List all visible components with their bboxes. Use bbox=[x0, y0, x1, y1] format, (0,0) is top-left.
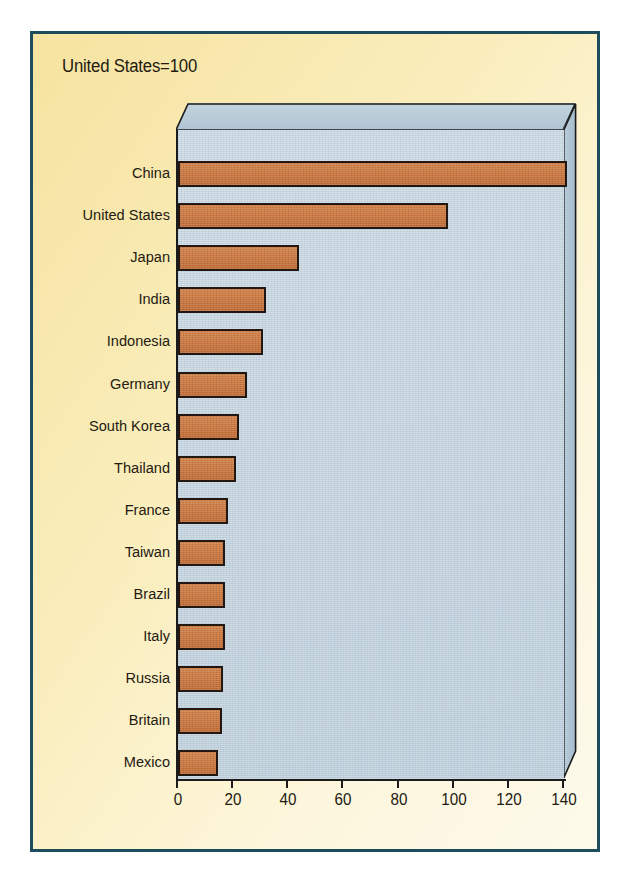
category-label-indonesia: Indonesia bbox=[0, 332, 170, 350]
category-label-italy: Italy bbox=[0, 627, 170, 645]
category-label-russia: Russia bbox=[0, 669, 170, 687]
figure-canvas: United States=100 ChinaUnited StatesJapa… bbox=[0, 0, 634, 893]
x-tick-60 bbox=[341, 779, 343, 788]
category-label-taiwan: Taiwan bbox=[0, 543, 170, 561]
category-label-brazil: Brazil bbox=[0, 585, 170, 603]
bar-italy bbox=[178, 624, 225, 650]
bar-south-korea bbox=[178, 414, 239, 440]
x-tick-40 bbox=[286, 779, 288, 788]
bar-japan bbox=[178, 245, 299, 271]
plot-front-wall bbox=[176, 130, 564, 779]
category-label-mexico: Mexico bbox=[0, 753, 170, 771]
x-tick-140 bbox=[562, 779, 564, 788]
bar-france bbox=[178, 498, 228, 524]
category-label-japan: Japan bbox=[0, 248, 170, 266]
bar-taiwan bbox=[178, 540, 225, 566]
plot-area-3d bbox=[176, 103, 576, 779]
bar-india bbox=[178, 287, 266, 313]
x-tick-label-20: 20 bbox=[212, 791, 254, 809]
category-label-thailand: Thailand bbox=[0, 459, 170, 477]
x-tick-80 bbox=[397, 779, 399, 788]
bar-brazil bbox=[178, 582, 225, 608]
bar-indonesia bbox=[178, 329, 263, 355]
bar-mexico bbox=[178, 750, 218, 776]
bar-germany bbox=[178, 372, 247, 398]
bar-united-states bbox=[178, 203, 448, 229]
category-label-france: France bbox=[0, 501, 170, 519]
x-axis: 020406080100120140 bbox=[176, 779, 578, 839]
category-label-china: China bbox=[0, 164, 170, 182]
category-label-united-states: United States bbox=[0, 206, 170, 224]
x-tick-label-100: 100 bbox=[433, 791, 475, 809]
chart-panel: United States=100 ChinaUnited StatesJapa… bbox=[30, 31, 600, 852]
bar-thailand bbox=[178, 456, 236, 482]
bar-russia bbox=[178, 666, 223, 692]
x-tick-0 bbox=[176, 779, 178, 788]
plot-top-face bbox=[176, 103, 576, 131]
x-tick-label-80: 80 bbox=[378, 791, 420, 809]
category-axis-labels: ChinaUnited StatesJapanIndiaIndonesiaGer… bbox=[0, 103, 170, 803]
x-tick-label-120: 120 bbox=[488, 791, 530, 809]
bar-china bbox=[178, 161, 567, 187]
category-label-germany: Germany bbox=[0, 375, 170, 393]
x-tick-label-60: 60 bbox=[323, 791, 365, 809]
x-tick-label-40: 40 bbox=[267, 791, 309, 809]
x-tick-label-140: 140 bbox=[543, 791, 585, 809]
x-tick-label-0: 0 bbox=[157, 791, 199, 809]
category-label-india: India bbox=[0, 290, 170, 308]
x-tick-100 bbox=[452, 779, 454, 788]
x-tick-120 bbox=[507, 779, 509, 788]
category-label-britain: Britain bbox=[0, 711, 170, 729]
bar-britain bbox=[178, 708, 222, 734]
category-label-south-korea: South Korea bbox=[0, 417, 170, 435]
x-tick-20 bbox=[231, 779, 233, 788]
plot-side-face bbox=[563, 103, 576, 779]
chart-title: United States=100 bbox=[62, 56, 197, 77]
